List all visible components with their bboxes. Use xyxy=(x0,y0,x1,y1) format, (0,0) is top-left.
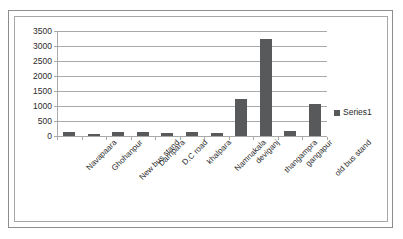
legend-swatch-icon xyxy=(334,110,340,116)
gridline xyxy=(57,76,327,77)
y-axis-tick-label: 2000 xyxy=(24,72,52,80)
x-axis-category-label: khalpara xyxy=(205,138,233,166)
y-axis-tick xyxy=(54,31,58,32)
plot-area xyxy=(57,31,327,136)
gridline xyxy=(57,46,327,47)
y-axis-tick xyxy=(54,106,58,107)
bar xyxy=(186,132,198,136)
bar xyxy=(161,133,173,136)
bar xyxy=(137,132,149,136)
y-axis-tick-label: 0 xyxy=(24,132,52,140)
bar xyxy=(63,132,75,136)
y-axis-tick-label: 1500 xyxy=(24,87,52,95)
gridline xyxy=(57,136,327,137)
bar-chart: 0500100015002000250030003500 NavapaaraGh… xyxy=(0,0,403,239)
gridline xyxy=(57,106,327,107)
screenshot-page: 0500100015002000250030003500 NavapaaraGh… xyxy=(0,0,403,239)
gridline xyxy=(57,121,327,122)
y-axis-tick-label: 3500 xyxy=(24,27,52,35)
x-axis-category-labels: NavapaaraGhohanpurNew bus standDarripara… xyxy=(57,138,337,198)
gridline xyxy=(57,61,327,62)
y-axis-tick xyxy=(54,76,58,77)
y-axis-tick xyxy=(54,121,58,122)
legend-label-series1: Series1 xyxy=(343,108,372,117)
bar xyxy=(309,104,321,136)
bar xyxy=(284,131,296,136)
y-axis-tick xyxy=(54,91,58,92)
y-axis-tick-label: 1000 xyxy=(24,102,52,110)
y-axis-tick-labels: 0500100015002000250030003500 xyxy=(22,31,52,136)
y-axis-tick xyxy=(54,61,58,62)
gridline xyxy=(57,91,327,92)
y-axis-tick-label: 2500 xyxy=(24,57,52,65)
y-axis-tick-label: 500 xyxy=(24,117,52,125)
bar xyxy=(88,134,100,136)
gridline xyxy=(57,31,327,32)
bar xyxy=(260,39,272,137)
bar xyxy=(211,133,223,136)
bar xyxy=(235,99,247,137)
x-axis-category-label: old bus stand xyxy=(333,138,373,178)
y-axis-tick-label: 3000 xyxy=(24,42,52,50)
bar xyxy=(112,132,124,136)
chart-legend: Series1 xyxy=(334,108,372,117)
y-axis-tick xyxy=(54,46,58,47)
